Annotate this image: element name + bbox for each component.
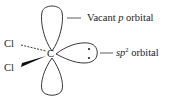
sp2-orbital-label: sp2 orbital bbox=[116, 46, 159, 58]
vacant-p-orbital-label: Vacant p orbital bbox=[87, 12, 154, 23]
chlorine-label-bottom: Cl bbox=[4, 62, 14, 73]
p-orbital-lower-lobe bbox=[41, 58, 62, 95]
dashed-bond bbox=[21, 45, 46, 51]
chlorine-label-top: Cl bbox=[4, 38, 14, 49]
dichlorocarbene-orbital-diagram: C Cl Cl Vacant p orbital sp2 orbital bbox=[0, 0, 179, 99]
wedge-bond bbox=[21, 56, 46, 67]
p-orbital-upper-lobe bbox=[41, 6, 62, 51]
lone-pair-electron bbox=[88, 57, 90, 59]
carbon-atom-label: C bbox=[47, 48, 54, 59]
sp2-orbital-lobe bbox=[56, 43, 97, 63]
lone-pair-electron bbox=[88, 48, 90, 50]
